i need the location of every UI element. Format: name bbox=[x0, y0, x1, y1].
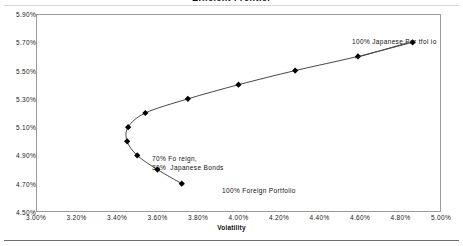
annotation-mixed-portfolio: 70% Fo reign, 30% Japanese Bonds bbox=[152, 155, 224, 172]
x-axis-tick-label: 3.00% bbox=[26, 214, 46, 221]
x-axis-tick-label: 5.00% bbox=[431, 214, 451, 221]
x-axis-tick-label: 3.80% bbox=[188, 214, 208, 221]
top-divider bbox=[4, 5, 459, 6]
bottom-divider bbox=[4, 240, 459, 241]
x-axis-tick-label: 4.60% bbox=[350, 214, 370, 221]
annotation-japanese-portfolio: 100% Japanese Por tfol io bbox=[352, 38, 437, 47]
chart-container: Efficient Frontier 5.90%5.70%5.50%5.30%5… bbox=[0, 0, 463, 246]
x-axis-label: Volatility bbox=[0, 224, 463, 231]
annotation-foreign-portfolio: 100% Foreign Portfolio bbox=[222, 187, 296, 196]
x-axis-tick-label: 4.20% bbox=[269, 214, 289, 221]
x-axis-tick-label: 3.20% bbox=[67, 214, 87, 221]
x-axis-tick-label: 4.40% bbox=[310, 214, 330, 221]
y-axis-tick-label: 5.10% bbox=[2, 124, 36, 131]
y-axis: 5.90%5.70%5.50%5.30%5.10%4.90%4.70%4.50% bbox=[0, 0, 36, 246]
x-axis-tick-label: 3.40% bbox=[107, 214, 127, 221]
y-axis-tick-label: 4.70% bbox=[2, 180, 36, 187]
chart-title: Efficient Frontier bbox=[0, 0, 463, 3]
y-axis-tick-label: 5.70% bbox=[2, 39, 36, 46]
y-axis-tick-label: 5.30% bbox=[2, 95, 36, 102]
x-axis-tick-label: 4.00% bbox=[229, 214, 249, 221]
y-axis-tick-label: 5.90% bbox=[2, 11, 36, 18]
x-axis-tick-label: 4.80% bbox=[391, 214, 411, 221]
y-axis-tick-label: 5.50% bbox=[2, 67, 36, 74]
x-axis-tick-label: 3.60% bbox=[148, 214, 168, 221]
y-axis-tick-label: 4.90% bbox=[2, 152, 36, 159]
